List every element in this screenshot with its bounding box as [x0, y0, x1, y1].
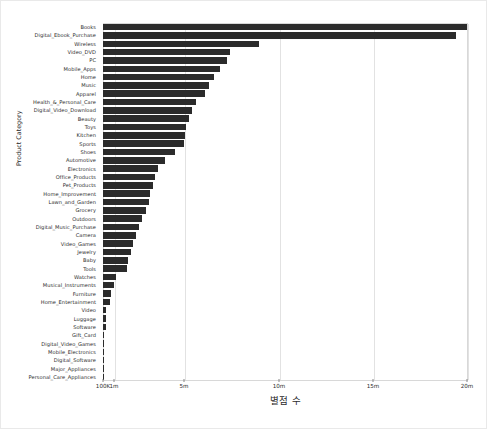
y-tick-label: Books [80, 24, 96, 30]
bar-row [103, 373, 468, 381]
bar [103, 124, 186, 131]
bar-row [103, 356, 468, 364]
bar-row [103, 173, 468, 181]
y-tick-label: Gift_Card [72, 332, 96, 338]
bar [103, 115, 189, 122]
bar-row [103, 40, 468, 48]
bar-row [103, 273, 468, 281]
y-tick-label: Pet_Products [63, 182, 96, 188]
y-tick-label: Digital_Video_Games [41, 341, 96, 347]
bar-row [103, 198, 468, 206]
y-tick-label: Home_Improvement [43, 191, 96, 197]
bar-row [103, 264, 468, 272]
bar [103, 282, 114, 289]
bar-row [103, 140, 468, 148]
bar [103, 307, 106, 314]
bar-row [103, 214, 468, 222]
y-tick-label: Beauty [78, 116, 96, 122]
bar [103, 132, 185, 139]
y-tick-label: PC [89, 57, 96, 63]
bar [103, 190, 150, 197]
bar-row [103, 206, 468, 214]
bar-series [103, 23, 468, 381]
y-tick-label: Electronics [68, 166, 96, 172]
y-tick-label: Office_Products [56, 174, 96, 180]
bar [103, 149, 175, 156]
y-tick-label: Shoes [80, 149, 96, 155]
y-tick-label: Apparel [76, 91, 96, 97]
bar [103, 107, 192, 114]
y-tick-label: Grocery [76, 207, 96, 213]
bar [103, 240, 133, 247]
y-tick-label: Luggage [74, 316, 96, 322]
bar [103, 215, 142, 222]
bar [103, 224, 139, 231]
bar [103, 340, 104, 347]
bar-row [103, 223, 468, 231]
x-tick-label: 5m [179, 382, 188, 390]
y-tick-label: Digital_Ebook_Purchase [35, 32, 96, 38]
x-tick-label: 15m [367, 382, 380, 390]
y-axis-title: Product Category [15, 111, 23, 167]
bar [103, 57, 227, 64]
bar [103, 349, 104, 356]
bar-row [103, 115, 468, 123]
bar-row [103, 56, 468, 64]
bar [103, 49, 230, 56]
y-tick-label: Wireless [74, 41, 96, 47]
y-tick-label: Watches [74, 274, 96, 280]
bar [103, 182, 153, 189]
y-tick-label: Home_Entertainment [41, 299, 96, 305]
bar-row [103, 65, 468, 73]
bar [103, 199, 149, 206]
bar-row [103, 165, 468, 173]
bar [103, 357, 104, 364]
bar-row [103, 298, 468, 306]
chart-figure: BooksDigital_Ebook_PurchaseWirelessVideo… [0, 0, 487, 429]
bar [103, 232, 136, 239]
y-tick-label: Lawn_and_Garden [49, 199, 96, 205]
bar [103, 165, 158, 172]
bar-row [103, 156, 468, 164]
bar-row [103, 289, 468, 297]
bar-row [103, 314, 468, 322]
bar-row [103, 81, 468, 89]
y-tick-label: Music [81, 82, 96, 88]
bar-row [103, 90, 468, 98]
y-tick-label: Software [73, 324, 96, 330]
x-tick-label: 100K [96, 382, 110, 390]
bar-row [103, 348, 468, 356]
bar [103, 174, 155, 181]
bar-row [103, 148, 468, 156]
bar-row [103, 181, 468, 189]
bar [103, 99, 196, 106]
bar [103, 82, 209, 89]
bar-row [103, 123, 468, 131]
bar [103, 41, 259, 48]
bar [103, 24, 467, 31]
y-tick-label: Health_&_Personal_Care [33, 99, 96, 105]
bar-row [103, 106, 468, 114]
bar-row [103, 73, 468, 81]
bar [103, 265, 127, 272]
y-tick-label: Sports [79, 141, 96, 147]
bar-row [103, 364, 468, 372]
bar [103, 157, 165, 164]
bar-row [103, 281, 468, 289]
y-tick-label: Automotive [66, 157, 96, 163]
y-tick-label: Video [81, 307, 96, 313]
bar [103, 90, 205, 97]
bar-row [103, 256, 468, 264]
bar [103, 207, 146, 214]
bar-row [103, 231, 468, 239]
bar [103, 74, 214, 81]
x-tick-label: 10m [273, 382, 286, 390]
bar [103, 365, 104, 372]
gridline-20m [468, 24, 469, 380]
bar-row [103, 131, 468, 139]
y-axis-tick-labels: BooksDigital_Ebook_PurchaseWirelessVideo… [1, 23, 100, 381]
y-tick-label: Camera [76, 232, 96, 238]
y-tick-label: Mobile_Electronics [48, 349, 96, 355]
bar-row [103, 323, 468, 331]
bar [103, 257, 128, 264]
